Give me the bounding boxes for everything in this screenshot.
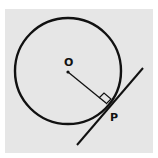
center-label: O — [64, 56, 73, 69]
point-label: P — [110, 111, 118, 124]
tangent-diagram: O P — [0, 0, 158, 158]
radius-line — [68, 72, 106, 103]
tangent-line — [77, 68, 143, 145]
